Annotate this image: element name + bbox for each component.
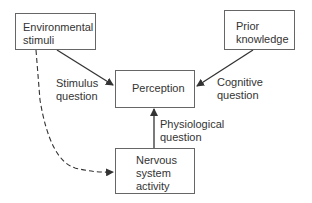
node-label: system [136,167,194,180]
node-environmental-stimuli: Environmental stimuli [15,13,96,50]
edge-label-line: question [56,90,98,103]
node-label: knowledge [236,33,294,46]
node-label: Environmental [23,21,95,34]
edge-label-line: Cognitive [217,76,263,89]
edge-label-stimulus-question: Stimulus question [56,77,98,103]
node-perception: Perception [115,70,195,108]
edge-label-line: question [217,89,263,102]
node-label: Prior [236,20,294,33]
node-label: stimuli [23,34,95,47]
node-prior-knowledge: Prior knowledge [224,10,295,50]
node-label: Perception [132,82,194,95]
edge-label-line: Physiological [160,118,224,131]
node-nervous-system-activity: Nervous system activity [115,148,195,194]
edge-label-line: question [160,131,224,144]
node-label: activity [136,180,194,193]
dashed-arrow [36,50,113,172]
edge-label-cognitive-question: Cognitive question [217,76,263,102]
edge-label-physiological-question: Physiological question [160,118,224,144]
node-label: Nervous [136,154,194,167]
edge-label-line: Stimulus [56,77,98,90]
